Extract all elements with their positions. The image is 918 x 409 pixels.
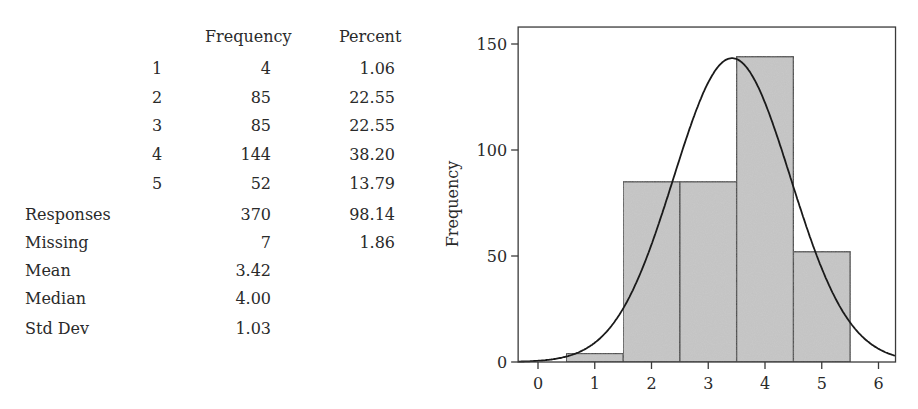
y-tick-label: 150 (477, 35, 508, 54)
summary-frequency: 7 (261, 233, 271, 253)
row-percent: 22.55 (349, 116, 395, 136)
y-axis-label: Frequency (443, 161, 462, 248)
header-percent: Percent (339, 27, 401, 47)
row-code: 3 (152, 116, 162, 136)
row-frequency: 85 (251, 116, 271, 136)
row-code: 4 (152, 145, 162, 165)
summary-value: 1.03 (235, 319, 271, 339)
x-tick-label: 4 (760, 374, 770, 393)
x-tick-label: 1 (590, 374, 600, 393)
row-code: 1 (152, 59, 162, 79)
summary-percent: 1.86 (359, 233, 395, 253)
row-frequency: 52 (251, 174, 271, 194)
y-tick-label: 100 (477, 141, 508, 160)
x-tick-label: 6 (873, 374, 883, 393)
histogram-bar (680, 182, 737, 362)
row-percent: 1.06 (359, 59, 395, 79)
x-tick-label: 2 (646, 374, 656, 393)
x-tick-label: 5 (817, 374, 827, 393)
frequency-table: Frequency Percent 1 4 1.06 2 85 22.55 3 … (0, 0, 430, 409)
row-code: 2 (152, 88, 162, 108)
summary-value: 3.42 (235, 261, 271, 281)
header-frequency: Frequency (205, 27, 292, 47)
histogram-bar (566, 354, 623, 362)
row-percent: 22.55 (349, 88, 395, 108)
summary-percent: 98.14 (349, 205, 395, 225)
summary-value: 4.00 (235, 289, 271, 309)
x-tick-label: 3 (703, 374, 713, 393)
summary-label: Missing (25, 233, 89, 253)
y-tick-label: 0 (497, 353, 507, 372)
row-percent: 38.20 (349, 145, 395, 165)
row-frequency: 85 (251, 88, 271, 108)
x-tick-label: 0 (533, 374, 543, 393)
summary-label: Median (25, 289, 86, 309)
x-axis: 0123456 (533, 362, 884, 393)
summary-label: Std Dev (25, 319, 89, 339)
histogram-svg: 050100150 0123456 Frequency (430, 0, 918, 409)
row-code: 5 (152, 174, 162, 194)
row-frequency: 144 (240, 145, 271, 165)
histogram-chart: 050100150 0123456 Frequency (430, 0, 918, 409)
summary-label: Mean (25, 261, 71, 281)
y-axis: 050100150 (477, 35, 519, 372)
summary-label: Responses (25, 205, 111, 225)
row-frequency: 4 (261, 59, 271, 79)
histogram-bars (566, 57, 850, 362)
histogram-bar (623, 182, 680, 362)
y-tick-label: 50 (487, 247, 507, 266)
row-percent: 13.79 (349, 174, 395, 194)
summary-frequency: 370 (240, 205, 271, 225)
